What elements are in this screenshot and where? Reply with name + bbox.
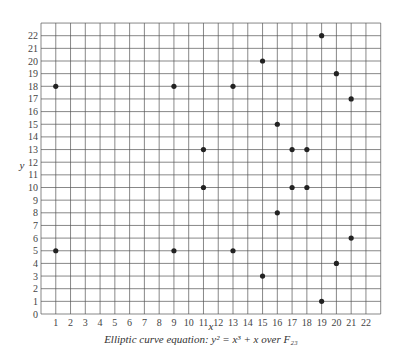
data-point <box>319 299 324 304</box>
data-point <box>289 147 294 152</box>
data-point <box>230 248 235 253</box>
x-tick-label: 15 <box>258 317 268 328</box>
y-tick-label: 9 <box>33 195 38 206</box>
x-tick-label: 20 <box>331 317 341 328</box>
x-tick-label: 1 <box>53 317 58 328</box>
data-point <box>304 185 309 190</box>
x-tick-label: 9 <box>171 317 176 328</box>
y-tick-label: 18 <box>28 81 38 92</box>
x-tick-label: 5 <box>112 317 117 328</box>
tick-labels: 1234567891011121314151617181920212201234… <box>28 30 371 328</box>
y-axis-label: y <box>19 159 25 171</box>
y-tick-label: 15 <box>28 119 38 130</box>
data-point <box>171 248 176 253</box>
y-tick-label: 12 <box>28 157 38 168</box>
x-tick-label: 2 <box>68 317 73 328</box>
x-tick-label: 11 <box>199 317 209 328</box>
y-tick-label: 14 <box>28 131 38 142</box>
x-tick-label: 6 <box>127 317 132 328</box>
data-point <box>334 71 339 76</box>
data-point <box>201 185 206 190</box>
data-point <box>349 236 354 241</box>
x-tick-label: 3 <box>83 317 88 328</box>
data-point <box>53 84 58 89</box>
x-tick-label: 17 <box>287 317 297 328</box>
y-tick-label: 19 <box>28 68 38 79</box>
x-tick-label: 12 <box>213 317 223 328</box>
data-point <box>319 33 324 38</box>
y-tick-label: 22 <box>28 30 38 41</box>
data-point <box>334 261 339 266</box>
data-point <box>275 122 280 127</box>
y-tick-label: 17 <box>28 93 38 104</box>
x-axis-label: x <box>208 320 214 332</box>
y-tick-label: 2 <box>33 283 38 294</box>
x-tick-label: 10 <box>184 317 194 328</box>
x-tick-label: 16 <box>272 317 282 328</box>
x-tick-label: 14 <box>243 317 253 328</box>
y-tick-label: 11 <box>28 169 38 180</box>
data-point <box>349 96 354 101</box>
y-tick-label: 1 <box>33 296 38 307</box>
data-point <box>230 84 235 89</box>
data-point <box>201 147 206 152</box>
data-point <box>171 84 176 89</box>
y-tick-label: 8 <box>33 207 38 218</box>
x-tick-label: 18 <box>302 317 312 328</box>
x-tick-label: 7 <box>142 317 147 328</box>
x-tick-label: 22 <box>361 317 371 328</box>
y-tick-label: 5 <box>33 245 38 256</box>
x-tick-label: 13 <box>228 317 238 328</box>
x-tick-label: 19 <box>317 317 327 328</box>
data-point <box>260 273 265 278</box>
data-point <box>260 58 265 63</box>
y-tick-label: 13 <box>28 144 38 155</box>
y-tick-label: 6 <box>33 233 38 244</box>
x-tick-label: 4 <box>98 317 103 328</box>
data-point <box>275 210 280 215</box>
y-tick-label: 20 <box>28 56 38 67</box>
data-point <box>304 147 309 152</box>
scatter-chart: 1234567891011121314151617181920212201234… <box>0 0 402 353</box>
y-tick-label: 3 <box>33 271 38 282</box>
x-tick-label: 21 <box>346 317 356 328</box>
chart-caption: Elliptic curve equation: y² = x³ + x ove… <box>0 333 402 345</box>
y-tick-label: 7 <box>33 220 38 231</box>
y-tick-label: 16 <box>28 106 38 117</box>
x-tick-label: 8 <box>157 317 162 328</box>
data-point <box>53 248 58 253</box>
grid-lines <box>41 23 381 314</box>
y-tick-label: 10 <box>28 182 38 193</box>
y-tick-label: 4 <box>33 258 38 269</box>
y-tick-label: 0 <box>33 309 38 320</box>
y-tick-label: 21 <box>28 43 38 54</box>
data-point <box>289 185 294 190</box>
